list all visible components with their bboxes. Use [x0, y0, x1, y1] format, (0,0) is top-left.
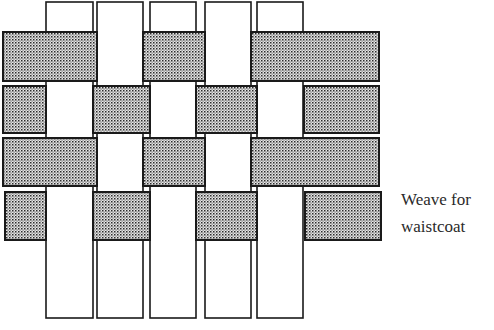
weft-segment-row-2 — [3, 86, 46, 133]
caption-line-1: Weave for — [401, 186, 471, 213]
warp-thread-2 — [97, 2, 143, 318]
caption-line-2: waistcoat — [401, 213, 471, 240]
weft-segment-row-4 — [305, 192, 381, 240]
weave-diagram — [0, 0, 494, 330]
weft-segment-row-3 — [251, 138, 379, 186]
diagram-caption: Weave for waistcoat — [401, 186, 471, 240]
weft-segment-row-4 — [93, 192, 150, 240]
warp-thread-4 — [205, 2, 251, 318]
weft-segment-row-2 — [196, 86, 257, 133]
weft-segment-row-2 — [93, 86, 150, 133]
weft-segment-row-4 — [196, 192, 257, 240]
weft-segment-row-1 — [143, 32, 205, 81]
weft-segment-row-2 — [304, 86, 379, 133]
weft-segment-row-4 — [5, 192, 46, 240]
weft-segment-row-1 — [251, 32, 379, 81]
weft-segment-row-3 — [143, 138, 205, 186]
weft-segment-row-1 — [3, 32, 97, 81]
weft-segment-row-3 — [3, 138, 97, 186]
